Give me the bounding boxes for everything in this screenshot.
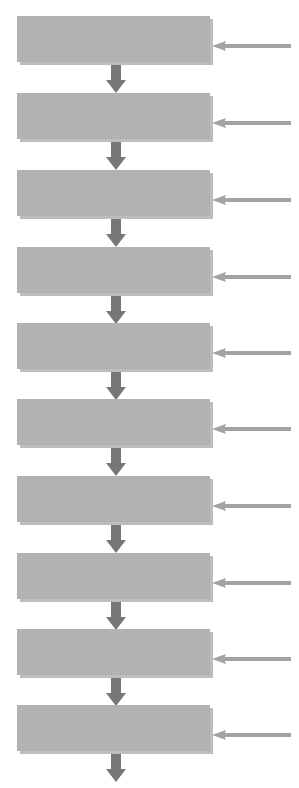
input-arrow-left-icon bbox=[212, 650, 292, 660]
step-label bbox=[17, 93, 210, 139]
step-label bbox=[17, 16, 210, 62]
process-step-box bbox=[17, 399, 210, 445]
flow-arrow-down-icon bbox=[106, 142, 126, 172]
process-step-box bbox=[17, 93, 210, 139]
input-arrow-left-icon bbox=[212, 268, 292, 278]
process-step-box bbox=[17, 16, 210, 62]
flow-arrow-down-icon bbox=[106, 602, 126, 632]
step-label bbox=[17, 629, 210, 675]
step-label bbox=[17, 247, 210, 293]
process-step-box bbox=[17, 476, 210, 522]
step-label bbox=[17, 705, 210, 751]
flow-arrow-down-icon bbox=[106, 65, 126, 95]
input-arrow-left-icon bbox=[212, 344, 292, 354]
step-label bbox=[17, 323, 210, 369]
flow-arrow-down-icon bbox=[106, 678, 126, 708]
process-step-box bbox=[17, 629, 210, 675]
input-arrow-left-icon bbox=[212, 497, 292, 507]
flow-arrow-down-icon bbox=[106, 219, 126, 249]
step-label bbox=[17, 476, 210, 522]
process-step-box bbox=[17, 170, 210, 216]
step-label bbox=[17, 399, 210, 445]
input-arrow-left-icon bbox=[212, 726, 292, 736]
flow-arrow-down-icon bbox=[106, 372, 126, 402]
input-arrow-left-icon bbox=[212, 420, 292, 430]
flow-arrow-down-icon bbox=[106, 448, 126, 478]
step-label bbox=[17, 553, 210, 599]
process-step-box bbox=[17, 705, 210, 751]
process-step-box bbox=[17, 553, 210, 599]
input-arrow-left-icon bbox=[212, 114, 292, 124]
flow-arrow-down-icon bbox=[106, 525, 126, 555]
flow-arrow-down-icon bbox=[106, 296, 126, 326]
process-step-box bbox=[17, 247, 210, 293]
input-arrow-left-icon bbox=[212, 37, 292, 47]
step-label bbox=[17, 170, 210, 216]
flow-arrow-down-icon bbox=[106, 754, 126, 784]
input-arrow-left-icon bbox=[212, 191, 292, 201]
input-arrow-left-icon bbox=[212, 574, 292, 584]
process-step-box bbox=[17, 323, 210, 369]
